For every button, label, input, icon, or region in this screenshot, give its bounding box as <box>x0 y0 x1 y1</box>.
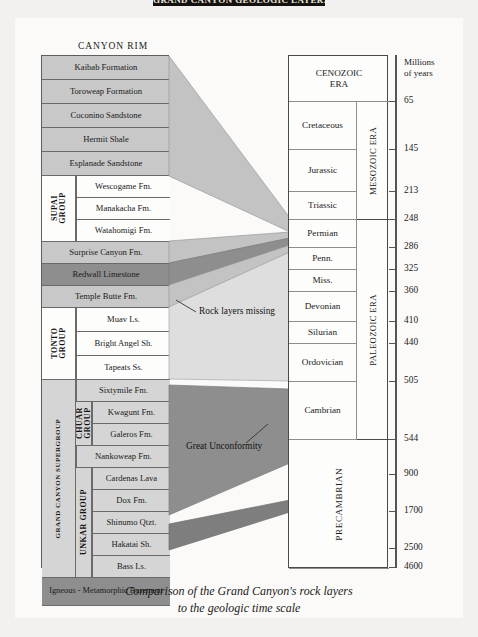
rock-layer-row: Esplanade Sandstone <box>42 152 170 176</box>
rock-layer-row: Coconino Sandstone <box>42 104 170 128</box>
axis-tick <box>389 191 397 192</box>
rock-layer-row: Toroweap Formation <box>42 80 170 104</box>
caption-line-1: Comparison of the Grand Canyon's rock la… <box>15 583 463 600</box>
geologic-period-row: PRECAMBRIAN <box>289 440 389 569</box>
rock-group-label: UNKAR GROUP <box>79 490 87 556</box>
rock-layer-row: Tapeats Ss. <box>76 356 170 380</box>
geologic-period-label: Cambrian <box>304 405 340 416</box>
rock-group-spine: UNKAR GROUP <box>76 468 92 578</box>
geologic-period-row: Permian <box>289 220 357 248</box>
geologic-era-label: MESOZOIC ERA <box>368 126 378 194</box>
rock-group-spine: CHUARGROUP <box>76 402 92 446</box>
geologic-period-row: Silurian <box>289 322 357 344</box>
axis-tick-label: 213 <box>404 185 418 195</box>
time-axis <box>395 55 397 568</box>
geologic-period-label: Penn. <box>312 253 333 264</box>
rock-layer-row: Muav Ls. <box>76 308 170 332</box>
rock-layer-label: Bass Ls. <box>117 562 146 571</box>
geologic-period-row: Triassic <box>289 192 357 220</box>
axis-tick <box>389 343 397 344</box>
rock-layer-label: Kaibab Formation <box>75 63 138 72</box>
top-banner: GRAND CANYON GEOLOGIC LAYERS <box>153 0 325 6</box>
axis-tick <box>389 149 397 150</box>
rock-layer-label: Tapeats Ss. <box>104 363 143 372</box>
axis-tick <box>389 247 397 248</box>
axis-title: Millions of years <box>404 57 435 80</box>
rock-layer-row: Redwall Limestone <box>42 264 170 286</box>
rock-layer-label: Kwagunt Fm. <box>108 408 155 417</box>
rock-layer-row: Watahomigi Fm. <box>76 220 170 242</box>
axis-tick <box>389 321 397 322</box>
geologic-era-box: PALEOZOIC ERA <box>357 220 389 440</box>
axis-tick <box>389 381 397 382</box>
rock-layer-label: Shinumo Qtzt. <box>106 518 156 527</box>
rock-layer-row: Galeros Fm. <box>92 424 170 446</box>
rock-layer-row: Bass Ls. <box>92 556 170 578</box>
rock-group-spine: GRAND CANYON SUPERGROUP <box>42 380 76 578</box>
rock-group-label: TONTOGROUP <box>50 328 66 359</box>
geologic-period-label: Jurassic <box>308 165 337 176</box>
rock-layer-label: Dox Fm. <box>116 496 147 505</box>
rock-layer-label: Sixtymile Fm. <box>99 386 148 395</box>
axis-tick <box>389 269 397 270</box>
geologic-period-row: Devonian <box>289 292 357 322</box>
rock-layer-label: Bright Angel Sh. <box>94 339 152 348</box>
axis-tick-label: 900 <box>404 468 418 478</box>
axis-tick-label: 248 <box>404 213 418 223</box>
geologic-period-label: Miss. <box>312 275 332 286</box>
rock-layer-label: Watahomigi Fm. <box>95 226 153 235</box>
axis-tick <box>389 511 397 512</box>
axis-tick-label: 2500 <box>404 542 423 552</box>
rock-group-spine: TONTOGROUP <box>42 308 76 380</box>
banner-title: GRAND CANYON GEOLOGIC LAYERS <box>153 0 325 6</box>
geologic-period-label: Cretaceous <box>302 120 343 131</box>
rock-layer-row: Hermit Shale <box>42 128 170 152</box>
rock-layer-label: Manakacha Fm. <box>96 204 151 213</box>
geologic-time-scale-column: CENOZOICERACretaceousJurassicTriassicPer… <box>288 55 388 568</box>
axis-tick <box>389 474 397 475</box>
rock-layer-row: Hakatai Sh. <box>92 534 170 556</box>
rock-layer-row: Temple Butte Fm. <box>42 286 170 308</box>
geologic-period-row: Miss. <box>289 270 357 292</box>
geologic-period-row: Ordovician <box>289 344 357 382</box>
canyon-rim-label: CANYON RIM <box>43 41 183 51</box>
caption-line-2: to the geologic time scale <box>15 600 463 617</box>
rock-layer-row: Kwagunt Fm. <box>92 402 170 424</box>
rock-group-label: GRAND CANYON SUPERGROUP <box>55 419 62 539</box>
axis-tick <box>389 567 397 568</box>
geologic-period-label: Triassic <box>308 200 337 211</box>
geologic-period-label: CENOZOICERA <box>316 68 362 89</box>
group-label-line2: GROUP <box>83 408 92 439</box>
axis-title-line2: of years <box>404 68 435 79</box>
geologic-period-label: Permian <box>307 228 338 239</box>
geologic-era-box: MESOZOIC ERA <box>357 102 389 220</box>
axis-tick-label: 440 <box>404 337 418 347</box>
rock-group-label: CHUARGROUP <box>75 408 91 440</box>
axis-tick <box>389 101 397 102</box>
rock-layer-label: Toroweap Formation <box>70 87 142 96</box>
rock-layer-label: Wescogame Fm. <box>95 182 152 191</box>
rock-layer-row: Bright Angel Sh. <box>76 332 170 356</box>
axis-tick-label: 286 <box>404 241 418 251</box>
axis-tick-label: 360 <box>404 285 418 295</box>
geologic-period-row: Penn. <box>289 248 357 270</box>
rock-layer-label: Redwall Limestone <box>72 270 139 279</box>
figure-caption: Comparison of the Grand Canyon's rock la… <box>15 583 463 618</box>
rock-layers-missing-label: Rock layers missing <box>199 306 275 316</box>
geologic-period-row: Cretaceous <box>289 102 357 150</box>
rock-layer-row: Shinumo Qtzt. <box>92 512 170 534</box>
rock-group-label: SUPAIGROUP <box>50 193 66 224</box>
geologic-period-label: Ordovician <box>302 357 343 368</box>
great-unconformity-label: Great Unconformity <box>186 441 262 451</box>
rock-layer-label: Galeros Fm. <box>110 430 153 439</box>
axis-tick-label: 410 <box>404 315 418 325</box>
geologic-period-label: Silurian <box>308 327 337 338</box>
rock-layer-row: Dox Fm. <box>92 490 170 512</box>
rock-layer-label: Muav Ls. <box>107 315 140 324</box>
axis-tick <box>389 291 397 292</box>
rock-layer-label: Cardenas Lava <box>106 474 157 483</box>
axis-tick <box>389 548 397 549</box>
rock-layer-row: Cardenas Lava <box>92 468 170 490</box>
axis-tick-label: 544 <box>404 433 418 443</box>
geologic-period-label: PRECAMBRIAN <box>334 468 345 541</box>
